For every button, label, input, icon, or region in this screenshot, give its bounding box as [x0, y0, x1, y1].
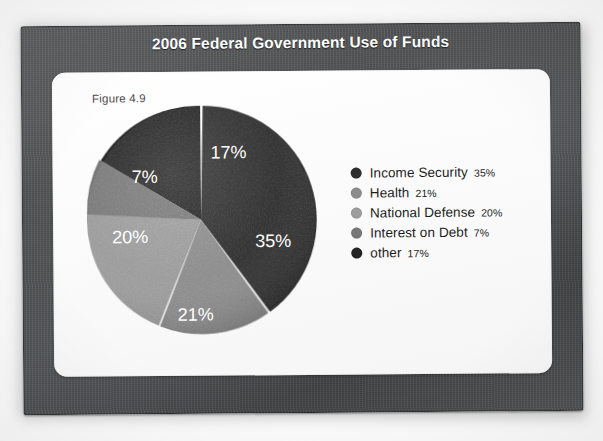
legend-swatch-icon [351, 188, 362, 199]
pie-label-income-security: 35% [255, 231, 291, 251]
legend-swatch-icon [351, 168, 362, 179]
figure-root: 2006 Federal Government Use of Funds Fig… [0, 0, 603, 441]
pie-chart: 17% 35% 21% 20% 7% [76, 99, 326, 345]
legend-label: other [370, 245, 401, 260]
legend-percent: 35% [474, 166, 495, 178]
pie-label-other: 17% [210, 142, 246, 162]
figure-card: Figure 4.9 [52, 69, 552, 377]
legend-label: Health [370, 185, 410, 200]
legend-swatch-icon [351, 228, 362, 239]
pie-label-interest-on-debt: 7% [132, 167, 158, 187]
legend-label: Income Security [370, 165, 468, 181]
legend-percent: 17% [408, 247, 429, 259]
pie-chart-svg: 17% 35% 21% 20% 7% [76, 99, 326, 345]
legend-percent: 7% [474, 227, 489, 239]
figure-title: 2006 Federal Government Use of Funds [21, 32, 581, 54]
legend-label: Interest on Debt [370, 225, 468, 241]
pie-label-health: 21% [178, 304, 214, 324]
legend-swatch-icon [351, 248, 362, 259]
legend-item-national-defense: National Defense 20% [351, 204, 547, 221]
chart-legend: Income Security 35% Health 21% National … [351, 164, 548, 266]
legend-item-other: other 17% [351, 244, 547, 261]
pie-label-national-defense: 20% [112, 227, 148, 247]
legend-percent: 20% [481, 206, 502, 218]
legend-item-interest-on-debt: Interest on Debt 7% [351, 224, 547, 241]
figure-frame: 2006 Federal Government Use of Funds Fig… [20, 22, 583, 415]
pie-shading [86, 105, 316, 335]
legend-item-health: Health 21% [351, 184, 547, 201]
legend-label: National Defense [370, 205, 475, 221]
legend-percent: 21% [415, 187, 436, 199]
title-band: 2006 Federal Government Use of Funds [20, 22, 580, 72]
legend-item-income-security: Income Security 35% [351, 164, 547, 181]
legend-swatch-icon [351, 208, 362, 219]
